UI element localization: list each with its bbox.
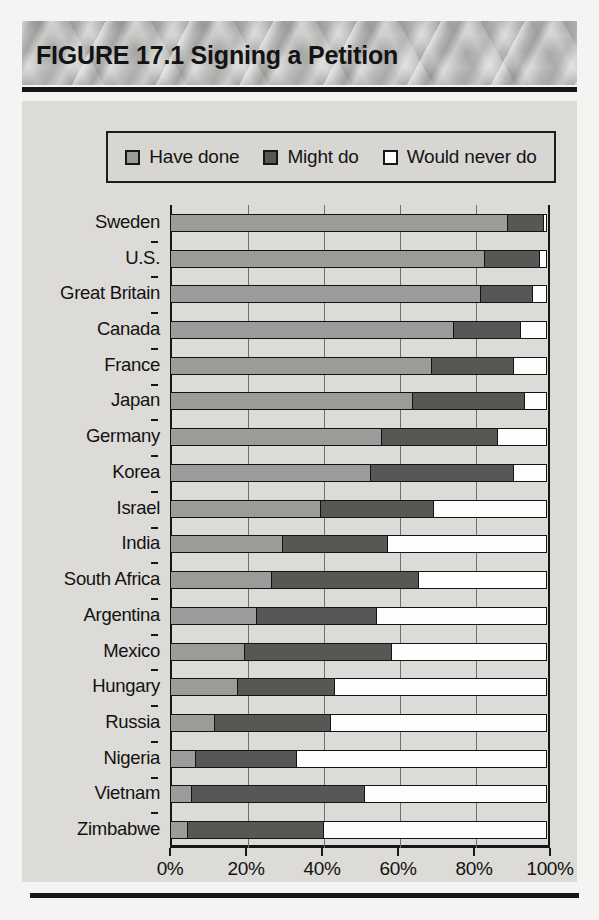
stacked-bar xyxy=(170,214,550,232)
bar-segment-would-never-do xyxy=(323,821,547,839)
y-axis-tick xyxy=(151,634,158,636)
x-axis-tick-80 xyxy=(473,848,475,856)
bar-row xyxy=(170,705,550,741)
bar-segment-have-done xyxy=(170,500,322,518)
bar-segment-might-do xyxy=(214,714,332,732)
bar-segment-might-do xyxy=(191,785,366,803)
y-axis-tick xyxy=(151,276,158,278)
x-axis-label-0: 0% xyxy=(157,858,184,880)
y-axis-label-hungary: Hungary xyxy=(10,675,160,697)
bar-segment-might-do xyxy=(431,357,515,375)
stacked-bar xyxy=(170,785,550,803)
bar-segment-would-never-do xyxy=(513,357,547,375)
bar-row xyxy=(170,527,550,563)
stacked-bar xyxy=(170,571,550,589)
stacked-bar xyxy=(170,392,550,410)
bar-row xyxy=(170,384,550,420)
stacked-bar xyxy=(170,535,550,553)
y-axis-tick xyxy=(151,348,158,350)
stacked-bar xyxy=(170,428,550,446)
y-axis-tick xyxy=(151,812,158,814)
x-axis-tick-60 xyxy=(397,848,399,856)
bar-segment-might-do xyxy=(187,821,324,839)
figure-page: FIGURE 17.1 Signing a Petition Have done… xyxy=(0,0,599,920)
bar-segment-might-do xyxy=(484,250,541,268)
bar-row xyxy=(170,777,550,813)
x-axis-label-60: 60% xyxy=(380,858,417,880)
bar-segment-have-done xyxy=(170,571,273,589)
bar-segment-have-done xyxy=(170,678,238,696)
bar-segment-would-never-do xyxy=(330,714,547,732)
bar-segment-might-do xyxy=(370,464,514,482)
y-axis-tick xyxy=(151,777,158,779)
bar-row xyxy=(170,634,550,670)
plot-area xyxy=(170,205,550,848)
stacked-bar xyxy=(170,643,550,661)
y-axis-label-canada: Canada xyxy=(10,318,160,340)
legend-item-0: Have done xyxy=(125,146,239,168)
y-axis-label-japan: Japan xyxy=(10,389,160,411)
stacked-bar xyxy=(170,321,550,339)
bar-row xyxy=(170,812,550,848)
y-axis-tick xyxy=(151,384,158,386)
y-axis-tick xyxy=(151,562,158,564)
bar-segment-have-done xyxy=(170,785,193,803)
y-axis-tick xyxy=(151,419,158,421)
bar-segment-have-done xyxy=(170,535,284,553)
y-axis-label-france: France xyxy=(10,354,160,376)
y-axis-label-germany: Germany xyxy=(10,425,160,447)
y-axis-label-sweden: Sweden xyxy=(10,211,160,233)
bar-segment-have-done xyxy=(170,428,383,446)
bar-segment-would-never-do xyxy=(334,678,547,696)
bar-segment-might-do xyxy=(381,428,499,446)
bar-segment-might-do xyxy=(480,285,533,303)
stacked-bar xyxy=(170,607,550,625)
bar-segment-would-never-do xyxy=(520,321,547,339)
x-axis-tick-40 xyxy=(321,848,323,856)
x-axis-label-80: 80% xyxy=(456,858,493,880)
bar-segment-would-never-do xyxy=(391,643,547,661)
bar-segment-have-done xyxy=(170,714,216,732)
stacked-bar xyxy=(170,250,550,268)
white-swatch-icon xyxy=(383,150,398,165)
bar-segment-would-never-do xyxy=(497,428,546,446)
figure-title: FIGURE 17.1 Signing a Petition xyxy=(36,41,398,70)
stacked-bar xyxy=(170,285,550,303)
y-axis-tick xyxy=(151,669,158,671)
y-axis-tick xyxy=(151,491,158,493)
bar-segment-might-do xyxy=(244,643,392,661)
bar-segment-have-done xyxy=(170,321,455,339)
y-axis-label-russia: Russia xyxy=(10,711,160,733)
bar-segment-might-do xyxy=(320,500,434,518)
y-axis-tick xyxy=(151,598,158,600)
bar-row xyxy=(170,598,550,634)
bar-segment-would-never-do xyxy=(296,750,547,768)
y-axis-tick xyxy=(151,312,158,314)
bar-segment-have-done xyxy=(170,250,485,268)
bar-row xyxy=(170,419,550,455)
bar-segment-have-done xyxy=(170,643,246,661)
bar-row xyxy=(170,455,550,491)
bar-row xyxy=(170,241,550,277)
x-axis-tick-0 xyxy=(169,848,171,856)
y-axis-label-argentina: Argentina xyxy=(10,604,160,626)
y-axis-label-korea: Korea xyxy=(10,461,160,483)
y-axis-tick xyxy=(151,705,158,707)
y-axis-label-nigeria: Nigeria xyxy=(10,747,160,769)
bar-segment-would-never-do xyxy=(513,464,547,482)
bar-segment-have-done xyxy=(170,607,257,625)
bar-segment-have-done xyxy=(170,821,189,839)
bar-segment-might-do xyxy=(282,535,388,553)
bar-segment-would-never-do xyxy=(532,285,547,303)
bar-segment-would-never-do xyxy=(539,250,547,268)
legend-item-1: Might do xyxy=(263,146,358,168)
stacked-bar xyxy=(170,821,550,839)
y-axis-label-great-britain: Great Britain xyxy=(10,282,160,304)
bar-segment-have-done xyxy=(170,392,413,410)
y-axis-tick xyxy=(151,455,158,457)
x-axis-tick-20 xyxy=(245,848,247,856)
bar-segment-would-never-do xyxy=(524,392,547,410)
legend-item-2: Would never do xyxy=(383,146,537,168)
bar-segment-might-do xyxy=(237,678,336,696)
stacked-bar xyxy=(170,678,550,696)
